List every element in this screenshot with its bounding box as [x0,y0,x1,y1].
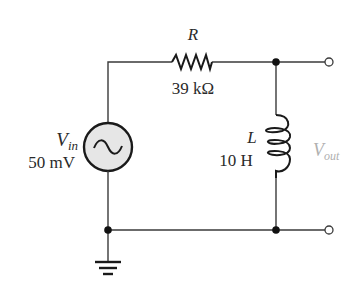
source-symbol-label: Vin [56,129,78,153]
circuit-diagram: R 39 kΩ Vin 50 mV L 10 H Vout [0,0,356,302]
resistor-symbol-label: R [187,25,199,44]
inductor-value-label: 10 H [219,151,253,170]
resistor-icon [172,55,212,69]
top-wire [108,62,325,122]
ground-icon [95,262,121,274]
inductor-icon [266,115,290,178]
inductor-symbol-label: L [246,128,256,147]
junction-dot-bottom-left [104,226,112,234]
output-terminal-top[interactable] [325,58,333,66]
junction-dot-top-right [272,58,280,66]
output-terminal-bottom[interactable] [325,226,333,234]
ac-source-icon [84,123,132,171]
source-value-label: 50 mV [28,153,75,172]
output-voltage-label: Vout [313,140,340,163]
resistor-value-label: 39 kΩ [172,79,214,98]
junction-dot-bottom-right [272,226,280,234]
